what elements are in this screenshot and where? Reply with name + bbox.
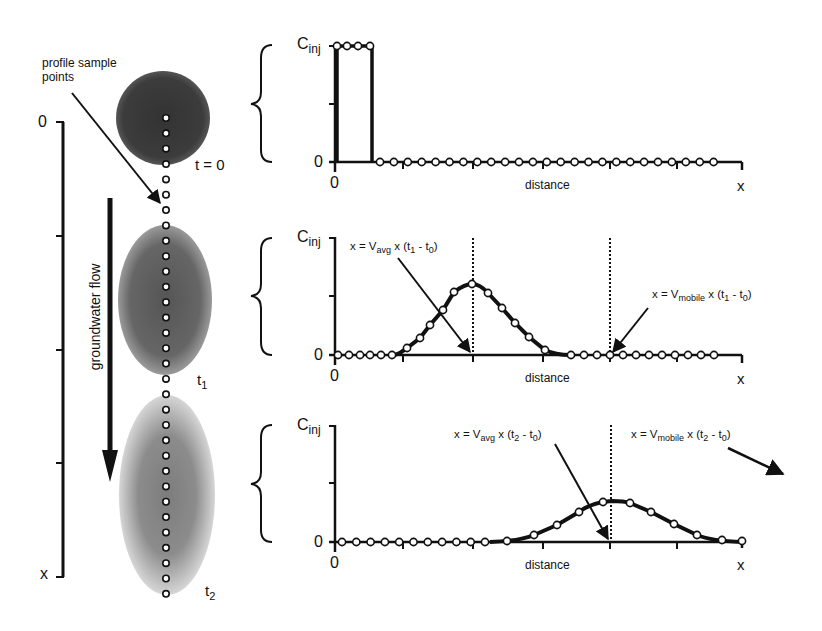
sample-point (404, 158, 411, 165)
depth-axis-bottom-label: x (40, 566, 48, 582)
sample-point (626, 499, 633, 506)
sample-point (502, 158, 509, 165)
sample-point (710, 351, 717, 358)
sample-point (557, 158, 564, 165)
sample-point (163, 192, 169, 198)
plot-2-vavg-arrow (398, 258, 470, 352)
sample-point (388, 351, 395, 358)
sample-point (453, 538, 460, 545)
sample-point (503, 537, 510, 544)
sample-point (484, 289, 491, 296)
sample-point (474, 158, 481, 165)
plot-2-x-end-label: x (737, 371, 745, 386)
sample-point (460, 158, 467, 165)
sample-point (163, 499, 169, 505)
plot-3-x-end-label: x (737, 557, 745, 572)
plot-1-x-end-label: x (737, 178, 745, 193)
sample-point (163, 376, 169, 382)
groundwater-flow-label: groundwater flow (88, 257, 102, 377)
sample-point (424, 538, 431, 545)
plot-1-x-zero-label: 0 (330, 175, 339, 191)
plot-2-y-top-sub: inj (309, 235, 321, 249)
sample-point (334, 351, 341, 358)
sample-point (163, 406, 169, 412)
sample-point (163, 591, 169, 597)
sample-point (682, 158, 689, 165)
sample-point (163, 115, 169, 121)
sample-point (426, 321, 433, 328)
sample-point (403, 344, 410, 351)
sample-point (163, 437, 169, 443)
plume-t2-time-label: t2 (205, 583, 215, 602)
groundwater-flow-arrow (102, 198, 118, 482)
sample-point (366, 351, 373, 358)
sample-point (439, 306, 446, 313)
sample-point (163, 130, 169, 136)
sample-point (367, 538, 374, 545)
sample-point (163, 360, 169, 366)
sample-point (718, 536, 725, 543)
diagram-canvas (0, 0, 822, 631)
sample-point (381, 538, 388, 545)
plot-2-vmobile-annotation: x = Vmobile x (t1 - t0) (652, 289, 752, 303)
sample-point (593, 351, 600, 358)
profile-sample-points-label: profile sample points (42, 56, 122, 84)
sample-point (585, 158, 592, 165)
sample-point (619, 351, 626, 358)
sample-point (543, 158, 550, 165)
sample-point (163, 284, 169, 290)
sample-point (446, 158, 453, 165)
sample-point (627, 158, 634, 165)
sample-point (710, 158, 717, 165)
sample-point (163, 545, 169, 551)
sample-point (163, 314, 169, 320)
sample-point (481, 538, 488, 545)
sample-point (163, 268, 169, 274)
plot-3-vavg-arrow (555, 444, 608, 539)
plot-1-y-top-main: C (297, 35, 309, 52)
plot-1-step-profile (337, 46, 372, 162)
plot-3-y-zero-label: 0 (314, 534, 323, 550)
sample-point (338, 538, 345, 545)
plot-3-vmobile-annotation: x = Vmobile x (t2 - t0) (631, 429, 731, 443)
plot-1-axes (329, 44, 742, 172)
sample-point (354, 42, 361, 49)
sample-point (647, 508, 654, 515)
plot-1-y-zero-label: 0 (314, 154, 323, 170)
plot-1-y-top-label: Cinj (297, 36, 321, 55)
sample-point (163, 161, 169, 167)
sample-point (511, 319, 518, 326)
sample-point (343, 42, 350, 49)
sample-point (396, 538, 403, 545)
sample-point (163, 575, 169, 581)
sample-point (376, 158, 383, 165)
sample-point (366, 42, 373, 49)
sample-point (356, 351, 363, 358)
sample-point (498, 304, 505, 311)
plot-1-sample-points (333, 42, 717, 165)
sample-point (613, 158, 620, 165)
plot-3-vavg-annotation: x = Vavg x (t2 - t0) (454, 429, 542, 443)
sample-point (410, 538, 417, 545)
sample-point (467, 538, 474, 545)
plot-3-x-zero-label: 0 (330, 555, 339, 571)
sample-point (163, 207, 169, 213)
sample-point (163, 330, 169, 336)
sample-point (553, 521, 560, 528)
sample-point (163, 299, 169, 305)
sample-point (696, 158, 703, 165)
sample-point (530, 531, 537, 538)
sample-point (697, 351, 704, 358)
sample-point (163, 238, 169, 244)
sample-point (163, 345, 169, 351)
sample-point (163, 468, 169, 474)
sample-point (632, 351, 639, 358)
sample-point (163, 222, 169, 228)
sample-point (163, 529, 169, 535)
sample-point (345, 351, 352, 358)
plot-2-y-top-label: Cinj (297, 229, 321, 248)
sample-point (439, 538, 446, 545)
sample-point (488, 158, 495, 165)
brace-plot-1 (251, 45, 272, 162)
sample-point (684, 351, 691, 358)
